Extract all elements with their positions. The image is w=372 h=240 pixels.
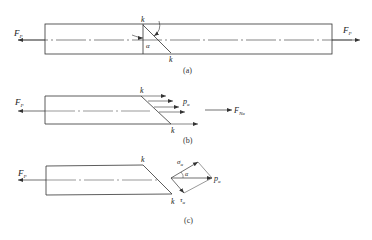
stress-diagram: FP FP k k α (a) FP pα k k FNα (b) (0, 0, 372, 240)
shear-stress-arrow (171, 178, 184, 193)
angle-arrow-left (132, 35, 143, 38)
force-label-right: FP (342, 25, 352, 36)
parallelogram-edge (184, 178, 212, 193)
caption-a: (a) (183, 66, 192, 75)
total-stress-label: pα (213, 174, 221, 184)
section-label-bottom: k (171, 126, 175, 135)
force-label-left: FP (17, 168, 27, 179)
stress-label: pα (182, 97, 190, 107)
section-label-top: k (140, 86, 144, 95)
bar-segment (45, 96, 171, 124)
angle-arc (181, 172, 183, 178)
force-label-left: FP (14, 97, 24, 108)
normal-stress-label: σα (177, 158, 183, 167)
panel-a: FP FP k k α (a) (13, 15, 360, 75)
angle-label: α (146, 42, 150, 50)
section-label-bottom: k (171, 197, 175, 206)
panel-b: FP pα k k FNα (b) (14, 86, 245, 145)
shear-stress-label: τα (180, 196, 186, 205)
caption-b: (b) (183, 136, 193, 145)
stress-decomposition (171, 162, 212, 193)
panel-c: FP k k σα τα pα α (c) (17, 155, 221, 225)
bar-body (45, 24, 332, 54)
section-label-bottom: k (169, 55, 173, 64)
section-label-top: k (141, 155, 145, 164)
internal-force-label: FNα (233, 106, 245, 116)
angle-arc (154, 21, 160, 36)
angle-label: α (185, 171, 189, 177)
section-label-top: k (141, 15, 145, 24)
parallelogram-edge (198, 162, 212, 178)
caption-c: (c) (184, 216, 193, 225)
force-label-left: FP (13, 28, 23, 39)
